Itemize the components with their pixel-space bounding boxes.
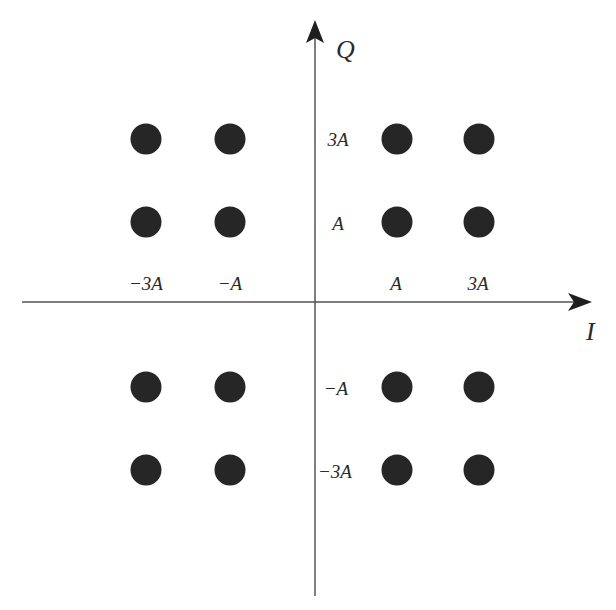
constellation-point — [215, 207, 246, 238]
constellation-point — [382, 124, 413, 155]
constellation-point — [382, 207, 413, 238]
x-tick-label: A — [388, 273, 402, 294]
x-tick-label: −3A — [129, 273, 163, 294]
constellation-point — [464, 124, 495, 155]
y-tick-labels: 3A A −A −3A — [318, 129, 352, 482]
constellation-point — [464, 372, 495, 403]
constellation-point — [464, 455, 495, 486]
constellation-point — [464, 207, 495, 238]
y-tick-label: −A — [324, 378, 349, 399]
q-axis-label: Q — [336, 35, 355, 64]
constellation-point — [131, 207, 162, 238]
constellation-point — [215, 124, 246, 155]
constellation-point — [131, 124, 162, 155]
constellation-point — [131, 372, 162, 403]
x-tick-label: 3A — [466, 273, 489, 294]
constellation-point — [382, 372, 413, 403]
x-tick-label: −A — [218, 273, 243, 294]
constellation-point — [382, 455, 413, 486]
y-tick-label: 3A — [326, 129, 349, 150]
x-tick-labels: −3A −A A 3A — [129, 273, 489, 294]
constellation-points — [131, 124, 495, 486]
constellation-point — [215, 455, 246, 486]
constellation-point — [215, 372, 246, 403]
axes — [22, 20, 592, 596]
constellation-diagram: Q I −3A −A A 3A 3A A −A −3A — [0, 0, 616, 610]
constellation-point — [131, 455, 162, 486]
y-tick-label: A — [330, 213, 344, 234]
y-tick-label: −3A — [318, 461, 352, 482]
i-axis-label: I — [585, 317, 596, 346]
